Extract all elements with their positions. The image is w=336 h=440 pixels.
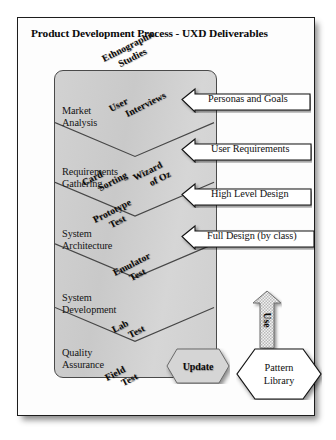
callout-personas-and-goals[interactable]: Personas and Goals — [181, 86, 311, 112]
use-arrow[interactable]: Use — [252, 290, 282, 350]
use-arrow-label: Use — [262, 312, 272, 327]
stage-label-line: Development — [62, 304, 174, 316]
stage-label-line: Architecture — [62, 240, 174, 252]
callout-label: Full Design (by class) — [207, 223, 297, 249]
callout-label: High Level Design — [211, 181, 289, 207]
callout-user-requirements[interactable]: User Requirements — [181, 136, 312, 162]
callout-label: User Requirements — [211, 136, 289, 162]
figure-title: Product Development Process - UXD Delive… — [31, 27, 301, 39]
callout-full-design[interactable]: Full Design (by class) — [181, 223, 315, 249]
figure-frame: Product Development Process - UXD Delive… — [17, 17, 315, 416]
stage-label-line: Quality — [62, 347, 174, 359]
update-label: Update — [166, 348, 230, 384]
stage-label-line: System — [62, 228, 174, 240]
callout-high-level-design[interactable]: High Level Design — [181, 181, 312, 207]
pattern-library-shape[interactable]: Pattern Library — [236, 348, 322, 400]
pattern-library-line: Library — [264, 374, 295, 387]
stage-label-system-architecture: System Architecture — [62, 228, 174, 253]
callout-label: Personas and Goals — [208, 86, 288, 112]
pattern-library-label: Pattern Library — [236, 348, 322, 400]
pattern-library-line: Pattern — [265, 361, 294, 374]
stage-label-system-development: System Development — [62, 292, 174, 317]
update-shape[interactable]: Update — [166, 348, 230, 384]
stage-label-line: System — [62, 292, 174, 304]
use-arrow-label-wrap: Use — [252, 290, 282, 350]
